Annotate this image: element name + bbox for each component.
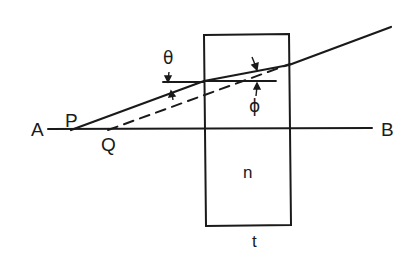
label-a: A: [31, 120, 44, 139]
ray-diagram: A P Q B θ ϕ n t: [0, 0, 417, 263]
incident-ray: [71, 81, 204, 130]
label-t-thickness: t: [252, 233, 257, 250]
label-n-refractive-index: n: [243, 164, 252, 181]
emergent-ray: [289, 27, 391, 65]
phi-upper-arrowhead-icon: [252, 63, 258, 70]
refracted-ray: [204, 65, 289, 81]
diagram-svg: [0, 0, 417, 263]
axis-line-ab: [48, 128, 372, 129]
label-p: P: [65, 111, 78, 130]
label-theta: θ: [163, 50, 173, 67]
phi-lower-arrowhead-icon: [254, 83, 260, 89]
slab-rectangle: [204, 34, 291, 226]
label-b: B: [381, 120, 394, 139]
virtual-ray-dashed: [108, 64, 290, 130]
label-q: Q: [101, 135, 116, 154]
label-phi: ϕ: [249, 98, 260, 115]
